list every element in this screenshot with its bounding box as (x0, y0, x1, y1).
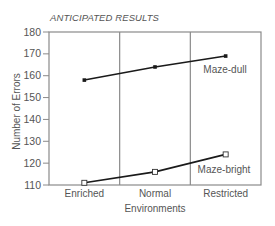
y-tick-label: 180 (23, 26, 41, 38)
plot-frame (49, 32, 261, 185)
x-category-label: Enriched (65, 188, 104, 199)
series-label: Maze-bright (198, 164, 251, 175)
x-axis-title: Environments (124, 203, 185, 214)
y-tick-label: 140 (23, 113, 41, 125)
y-tick-label: 150 (23, 91, 41, 103)
series-label: Maze-dull (203, 64, 246, 75)
y-tick-label: 170 (23, 47, 41, 59)
y-tick-label: 160 (23, 69, 41, 81)
y-tick-label: 130 (23, 135, 41, 147)
x-category-label: Normal (139, 188, 171, 199)
filled-square-marker (83, 78, 87, 82)
open-square-marker (223, 152, 228, 157)
open-square-marker (82, 180, 87, 185)
y-tick-label: 110 (24, 179, 41, 191)
y-tick-label: 120 (23, 157, 41, 169)
y-axis-title: Number of Errors (11, 73, 22, 150)
line-chart: 110120130140150160170180EnrichedNormalRe… (0, 0, 275, 226)
x-category-label: Restricted (203, 188, 248, 199)
filled-square-marker (153, 65, 157, 69)
open-square-marker (153, 169, 158, 174)
filled-square-marker (224, 54, 228, 58)
